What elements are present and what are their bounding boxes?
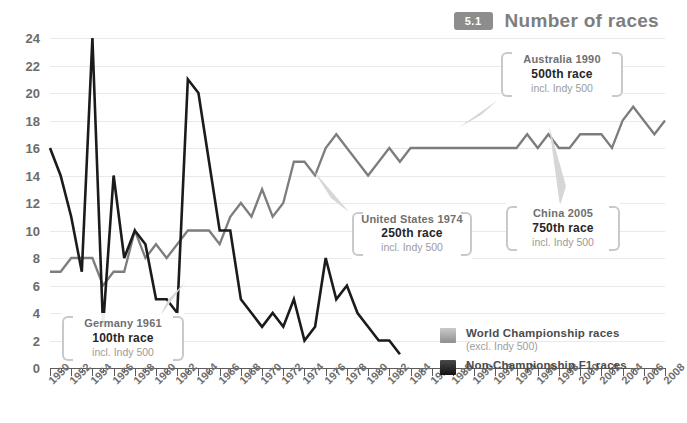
x-axis-labels: 1950195219541956195819601962196419661968… [0, 376, 673, 423]
y-tick-label-22: 22 [26, 58, 40, 73]
callout-line3: incl. Indy 500 [503, 82, 621, 95]
legend-label: Non-Championship F1 races [466, 359, 627, 372]
legend-item-world-championship: World Championship races (excl. Indy 500… [440, 327, 670, 353]
bracket-left [506, 206, 517, 251]
y-tick-label-0: 0 [33, 361, 40, 376]
series-line-non-championship [50, 38, 400, 354]
y-tick-label-24: 24 [26, 31, 40, 46]
legend-sublabel: (excl. Indy 500) [466, 340, 619, 353]
callout-line1: Germany 1961 [64, 317, 182, 331]
bracket-right [173, 316, 184, 361]
legend-swatch [440, 360, 456, 375]
bracket-left [62, 316, 73, 361]
callout-line1: United States 1974 [354, 213, 470, 226]
y-tick-label-12: 12 [26, 196, 40, 211]
callout-line3: incl. Indy 500 [64, 346, 182, 359]
callout-line2: 100th race [64, 331, 182, 346]
y-tick-label-2: 2 [33, 333, 40, 348]
bracket-right [612, 52, 623, 97]
y-axis-labels: 024681012141618202224 [0, 30, 46, 368]
y-tick-label-10: 10 [26, 223, 40, 238]
callout-germany-1961: Germany 1961 100th race incl. Indy 500 [62, 313, 184, 364]
callout-line2: 250th race [354, 226, 470, 241]
section-badge: 5.1 [454, 12, 493, 30]
callout-china-2005: China 2005 750th race incl. Indy 500 [506, 203, 620, 254]
legend-swatch [440, 328, 456, 343]
callout-line1: Australia 1990 [503, 53, 621, 67]
callout-united-states-1974: United States 1974 250th race incl. Indy… [352, 209, 472, 259]
y-tick-label-20: 20 [26, 86, 40, 101]
bracket-left [352, 212, 363, 256]
y-tick-label-6: 6 [33, 278, 40, 293]
page-title: Number of races [505, 10, 659, 32]
bracket-left [501, 52, 512, 97]
callout-line3: incl. Indy 500 [354, 241, 470, 254]
y-tick-label-14: 14 [26, 168, 40, 183]
legend-item-non-championship: Non-Championship F1 races [440, 359, 670, 375]
callout-line2: 500th race [503, 67, 621, 82]
callout-line3: incl. Indy 500 [508, 236, 618, 249]
y-tick-label-4: 4 [33, 306, 40, 321]
y-tick-label-8: 8 [33, 251, 40, 266]
bracket-right [609, 206, 620, 251]
bracket-right [461, 212, 472, 256]
y-tick-label-16: 16 [26, 141, 40, 156]
chart-header: 5.1 Number of races [454, 10, 659, 32]
y-tick-label-18: 18 [26, 113, 40, 128]
legend-label: World Championship races [466, 327, 619, 340]
legend: World Championship races (excl. Indy 500… [440, 327, 670, 381]
callout-australia-1990: Australia 1990 500th race incl. Indy 500 [501, 49, 623, 100]
callout-line2: 750th race [508, 221, 618, 236]
callout-line1: China 2005 [508, 207, 618, 221]
